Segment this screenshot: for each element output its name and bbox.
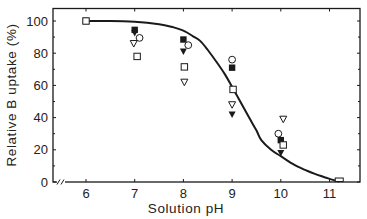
plot-border: [53, 9, 360, 183]
marker-filled-square: [229, 64, 235, 70]
marker-open-circle: [185, 42, 192, 49]
x-tick-label: 10: [274, 186, 288, 201]
marker-filled-triangle: [180, 49, 187, 56]
x-tick-label: 6: [82, 186, 89, 201]
y-tick-label: 60: [34, 78, 48, 93]
data-points: [83, 18, 287, 157]
x-tick-label: 9: [228, 186, 235, 201]
x-tick-label: 11: [323, 186, 337, 201]
x-axis-ticks: 67891011: [82, 9, 336, 202]
marker-open-triangle: [229, 102, 236, 109]
marker-open-square: [280, 142, 286, 148]
marker-open-circle: [275, 130, 282, 137]
y-tick-label: 100: [26, 14, 48, 29]
curve-end-marker: [335, 178, 343, 182]
marker-open-square: [83, 18, 89, 24]
y-tick-label: 80: [34, 46, 48, 61]
marker-open-triangle: [280, 116, 287, 123]
marker-open-triangle: [130, 41, 137, 48]
marker-open-square: [230, 86, 236, 92]
marker-open-triangle: [181, 79, 188, 86]
marker-filled-square: [180, 36, 186, 42]
chart: 67891011 020406080100 Solution pH Relati…: [0, 0, 367, 219]
y-axis-ticks: 020406080100: [26, 14, 360, 190]
marker-open-square: [134, 53, 140, 59]
marker-open-circle: [229, 56, 236, 63]
y-axis-title: Relative B uptake (%): [4, 23, 19, 166]
y-tick-label: 0: [41, 175, 48, 190]
x-tick-label: 7: [131, 186, 138, 201]
y-tick-label: 20: [34, 142, 48, 157]
x-axis-title: Solution pH: [148, 201, 224, 216]
x-tick-label: 8: [180, 186, 187, 201]
fitted-curve-line: [86, 21, 339, 182]
marker-filled-triangle: [229, 111, 236, 118]
marker-open-square: [181, 64, 187, 70]
plot-frame: [53, 9, 360, 183]
fitted-curve: [86, 21, 343, 182]
y-tick-label: 40: [34, 110, 48, 125]
axis-break-icon: [57, 179, 65, 185]
